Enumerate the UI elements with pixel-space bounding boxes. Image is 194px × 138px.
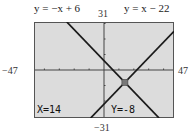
equation-label-right: y = x − 22	[124, 2, 169, 14]
y-readout: Y=-8	[110, 104, 136, 115]
xmin-label: −47	[2, 65, 18, 76]
equation-label-left: y = −x + 6	[34, 2, 80, 14]
xmax-label: 47	[178, 65, 188, 76]
ymax-label: 31	[98, 8, 108, 19]
ymin-label: −31	[94, 122, 110, 133]
x-readout: X=14	[36, 104, 62, 115]
trace-cursor	[122, 79, 128, 85]
